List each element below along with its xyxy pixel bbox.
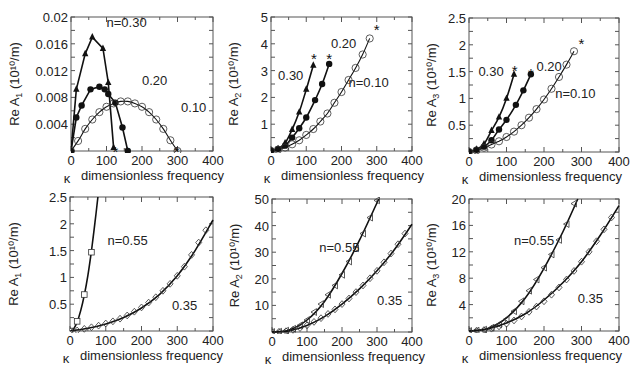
triangle-marker [303, 85, 309, 91]
series-annotation: 0.35 [172, 298, 197, 313]
x-tick-label: 400 [202, 153, 224, 168]
y-axis-label: Re A2 (10¹⁰/m) [226, 42, 243, 126]
series-annotation: n=0.10 [349, 75, 389, 90]
x-tick-label: 300 [366, 334, 388, 349]
series-annotation: 0.30 [278, 68, 303, 83]
x-tick-label: 0 [267, 153, 274, 168]
circle-marker [503, 117, 509, 123]
chart-panel-bottom-left: 01002003004000.511.522.5Re A1 (10¹⁰/m)κd… [6, 190, 224, 366]
x-tick-label: 100 [95, 333, 117, 348]
series-annotation: n=0.10 [555, 86, 595, 101]
y-tick-label: 50 [255, 192, 269, 207]
series-line [71, 87, 128, 151]
asterisk-marker: * [528, 65, 534, 82]
asterisk-marker: * [512, 62, 518, 79]
x-axis-label: dimensionless frequency [281, 168, 425, 183]
asterisk-marker: * [374, 21, 380, 38]
y-tick-label: 1.5 [49, 244, 67, 259]
series-line [271, 38, 370, 151]
chart-panel-bottom-right: 010020030040048121620Re A3 (10¹⁰/m)κdime… [424, 192, 630, 366]
y-tick-label: 0.016 [35, 37, 68, 52]
triangle-marker [105, 79, 111, 85]
figure: 01002003004000.0040.0080.0120.0160.02Re … [0, 0, 632, 373]
chart-panel-bottom-middle: 01002003004001020304050Re A2 (10¹⁰/m)κdi… [227, 192, 426, 367]
y-tick-label: 20 [255, 272, 269, 287]
kappa-symbol: κ [63, 351, 70, 366]
series-annotation: n=0.30 [107, 15, 147, 30]
y-axis-label: Re A3 (10¹⁰/m) [424, 43, 441, 127]
x-tick-label: 300 [571, 154, 593, 169]
x-axis-label: dimensionless frequency [479, 348, 623, 363]
triangle-marker [296, 108, 302, 114]
y-tick-label: 10 [255, 298, 269, 313]
square-marker [89, 249, 95, 255]
kappa-symbol: κ [64, 171, 71, 186]
series-annotation: 0.30 [478, 64, 503, 79]
x-axis-label: dimensionless frequency [80, 348, 224, 363]
asterisk-marker: * [112, 143, 118, 160]
asterisk-marker: * [124, 143, 130, 160]
y-tick-label: 4 [459, 298, 466, 313]
asterisk-marker: * [326, 50, 332, 67]
y-tick-label: 2 [60, 217, 67, 232]
y-tick-label: 1.5 [448, 65, 466, 80]
series-line [469, 74, 531, 151]
circle-marker [303, 114, 309, 120]
y-tick-label: 0.02 [43, 10, 68, 25]
triangle-marker [89, 33, 95, 39]
y-tick-label: 0.008 [35, 90, 68, 105]
circle-marker [513, 102, 519, 108]
x-tick-label: 400 [401, 334, 423, 349]
circle-marker [289, 134, 295, 140]
y-tick-label: 0.012 [35, 64, 68, 79]
y-tick-label: 4 [261, 37, 268, 52]
x-tick-label: 200 [131, 153, 153, 168]
kappa-symbol: κ [462, 172, 469, 187]
x-tick-label: 200 [331, 334, 353, 349]
circle-marker [520, 87, 526, 93]
y-axis-label: Re A3 (10¹⁰/m) [424, 223, 441, 307]
plot-frame [469, 199, 619, 331]
circle-marker [296, 125, 302, 131]
x-tick-label: 0 [268, 334, 275, 349]
circle-marker [73, 114, 79, 120]
x-tick-label: 200 [131, 333, 153, 348]
y-tick-label: 0.5 [49, 297, 67, 312]
x-tick-label: 300 [366, 153, 388, 168]
y-tick-label: 12 [452, 245, 466, 260]
plot-frame [272, 199, 412, 332]
chart-panel-top-right: 01002003004000.511.522.5Re A3 (10¹⁰/m)κd… [424, 11, 630, 187]
y-tick-label: 2 [459, 38, 466, 53]
y-tick-label: 5 [261, 10, 268, 25]
y-tick-label: 0.004 [35, 117, 68, 132]
x-axis-label: dimensionless frequency [282, 349, 426, 364]
kappa-symbol: κ [264, 171, 271, 186]
y-tick-label: 3 [261, 64, 268, 79]
square-marker [82, 292, 88, 298]
circle-marker [78, 102, 84, 108]
y-axis-label: Re A1 (10¹⁰/m) [7, 42, 24, 126]
y-tick-label: 30 [255, 245, 269, 260]
x-tick-label: 200 [533, 154, 555, 169]
series-n0-55 [67, 197, 98, 334]
circle-marker [496, 126, 502, 132]
y-axis-label: Re A1 (10¹⁰/m) [6, 222, 23, 306]
series-annotation: 0.20 [142, 73, 167, 88]
chart-panel-top-middle: 010020030040012345Re A2 (10¹⁰/m)κdimensi… [226, 10, 425, 186]
asterisk-marker: * [579, 35, 585, 52]
x-axis-label: dimensionless frequency [81, 168, 225, 183]
y-tick-label: 8 [459, 271, 466, 286]
circle-marker [319, 81, 325, 87]
series-annotation: 0.35 [578, 291, 603, 306]
kappa-symbol: κ [265, 352, 272, 367]
series-annotation: 0.10 [181, 100, 206, 115]
circle-marker [488, 137, 494, 143]
circle-marker [105, 91, 111, 97]
x-tick-label: 200 [331, 153, 353, 168]
series-line [469, 199, 578, 331]
x-tick-label: 100 [496, 154, 518, 169]
square-marker [74, 319, 80, 325]
x-tick-label: 100 [296, 334, 318, 349]
x-tick-label: 100 [496, 333, 518, 348]
x-axis-label: dimensionless frequency [479, 169, 623, 184]
